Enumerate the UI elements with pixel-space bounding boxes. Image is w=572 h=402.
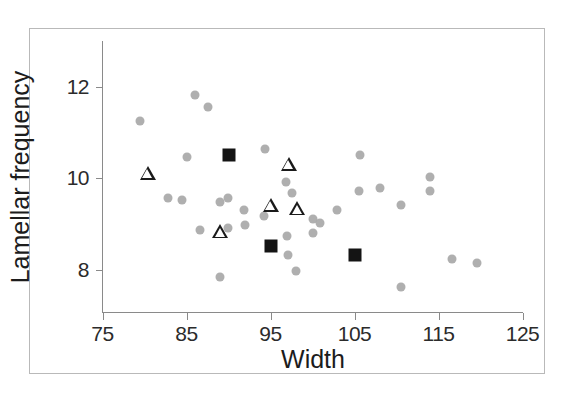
data-point-circle [473,259,482,268]
x-tick-label: 115 [423,322,455,346]
y-tick-mark [96,270,103,271]
y-tick-mark [96,87,103,88]
data-point-circle [396,200,405,209]
data-point-circle [195,226,204,235]
y-tick-label: 8 [78,258,89,282]
data-point-circle [164,193,173,202]
data-point-triangle [212,224,228,238]
x-tick-label: 125 [506,322,540,346]
data-point-circle [332,205,341,214]
data-point-circle [261,145,270,154]
data-point-circle [291,267,300,276]
x-tick-mark [271,313,272,320]
data-point-triangle [140,166,156,180]
x-tick-label: 75 [91,322,113,346]
data-point-circle [223,193,232,202]
x-tick-mark [523,313,524,320]
data-point-square [348,249,361,262]
x-axis-label: Width [281,345,345,374]
data-point-triangle [281,157,297,171]
plot-area: 758595105115125 81012 Width Lamellar fre… [0,0,572,402]
data-point-circle [136,117,145,126]
x-axis-line [102,312,523,313]
y-tick-label: 12 [67,75,89,99]
data-point-circle [426,187,435,196]
data-point-circle [308,229,317,238]
x-tick-label: 95 [259,322,281,346]
data-point-circle [241,221,250,230]
data-point-circle [216,272,225,281]
data-point-circle [375,183,384,192]
data-point-circle [355,150,364,159]
data-point-circle [259,211,268,220]
data-point-square [222,149,235,162]
scatter-plot-figure: 758595105115125 81012 Width Lamellar fre… [0,0,572,402]
x-tick-label: 105 [338,322,372,346]
x-tick-label: 85 [175,322,197,346]
data-point-circle [283,231,292,240]
x-tick-mark [355,313,356,320]
y-tick-mark [96,178,103,179]
data-point-circle [190,90,199,99]
data-point-circle [316,219,325,228]
data-point-circle [282,178,291,187]
y-axis-line [102,41,103,313]
y-axis-label: Lamellar frequency [6,71,35,284]
x-tick-mark [103,313,104,320]
data-point-circle [288,189,297,198]
x-tick-mark [439,313,440,320]
data-point-circle [203,103,212,112]
data-point-circle [396,283,405,292]
data-point-circle [182,152,191,161]
data-point-circle [284,251,293,260]
y-tick-label: 10 [67,166,89,190]
data-point-circle [178,195,187,204]
data-point-square [264,240,277,253]
data-point-circle [239,205,248,214]
x-tick-mark [187,313,188,320]
data-point-triangle [263,198,279,212]
data-point-circle [354,187,363,196]
data-point-triangle [289,201,305,215]
data-point-circle [447,254,456,263]
data-point-circle [426,173,435,182]
